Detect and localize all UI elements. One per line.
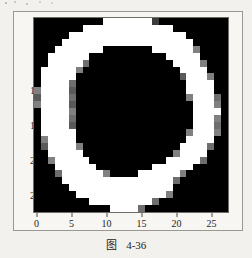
x-axis-tick-label: 0 xyxy=(34,219,39,229)
x-axis-tick-label: 20 xyxy=(172,219,182,229)
x-axis-tick-label: 25 xyxy=(207,219,217,229)
x-axis-tick-label: 15 xyxy=(137,219,147,229)
x-axis: 0510152025 xyxy=(33,213,231,235)
x-axis-tick xyxy=(106,213,107,217)
x-axis-tick-label: 10 xyxy=(102,219,112,229)
plot-area xyxy=(33,17,229,213)
caption-symbol: 图 xyxy=(106,239,118,252)
x-axis-tick xyxy=(176,213,177,217)
x-axis-tick xyxy=(36,213,37,217)
figure-frame: 0510152025 0510152025 xyxy=(13,11,243,231)
caption-number: 4-36 xyxy=(126,239,146,251)
scan-noise-artifact xyxy=(0,0,252,7)
x-axis-tick xyxy=(141,213,142,217)
figure-caption: 图4-36 xyxy=(0,236,252,252)
x-axis-tick-label: 5 xyxy=(69,219,74,229)
x-axis-tick xyxy=(71,213,72,217)
x-axis-tick xyxy=(211,213,212,217)
pixel-image-heatmap xyxy=(33,17,229,213)
